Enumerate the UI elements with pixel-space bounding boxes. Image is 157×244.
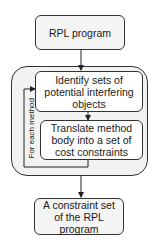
loop-label: For each method — [27, 99, 36, 159]
identify-node: Identify sets of potential interfering o… — [35, 71, 143, 112]
rpl-program-label: RPL program — [49, 27, 111, 39]
translate-node: Translate method body into a set of cost… — [40, 120, 143, 160]
constraint-set-label: A constraint set of the RPL program — [38, 199, 120, 235]
translate-label: Translate method body into a set of cost… — [43, 122, 140, 158]
identify-label: Identify sets of potential interfering o… — [39, 74, 139, 110]
constraint-set-node: A constraint set of the RPL program — [34, 198, 124, 235]
rpl-program-node: RPL program — [35, 15, 125, 50]
